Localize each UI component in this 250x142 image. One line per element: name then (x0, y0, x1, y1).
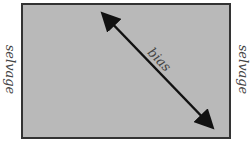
selvage-label-right: selvage (236, 45, 250, 95)
bias-arrow-icon (0, 0, 250, 142)
selvage-label-left: selvage (3, 45, 18, 95)
